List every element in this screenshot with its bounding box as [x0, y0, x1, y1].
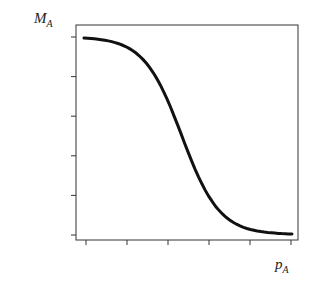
plot-frame	[76, 25, 298, 240]
y-axis-ticks	[71, 37, 76, 235]
chart-canvas	[0, 0, 314, 286]
x-axis-ticks	[86, 240, 291, 245]
x-axis-label: pA	[275, 256, 289, 275]
y-axis-label: MA	[34, 10, 53, 29]
data-curve	[84, 38, 292, 234]
